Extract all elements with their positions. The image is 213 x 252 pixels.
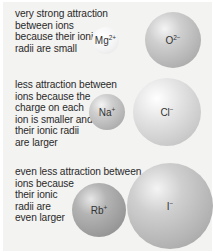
ion-label-na: Na+: [99, 107, 116, 118]
ion-label-mg: Mg2+: [95, 35, 116, 46]
ion-label-o: O2−: [165, 35, 180, 46]
ion-label-cl: Cl−: [160, 107, 173, 118]
ion-na: Na+: [89, 94, 125, 130]
ion-cl: Cl−: [133, 78, 201, 146]
ion-i: I−: [127, 163, 213, 249]
ion-label-rb: Rb+: [91, 205, 108, 216]
ion-rb: Rb+: [72, 183, 126, 237]
ion-mg: Mg2+: [92, 27, 119, 54]
ion-label-i: I−: [167, 201, 174, 212]
ion-o: O2−: [145, 12, 201, 68]
